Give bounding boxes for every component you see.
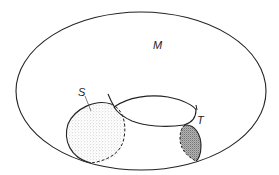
disc-s bbox=[66, 103, 124, 164]
label-t: T bbox=[197, 114, 205, 126]
label-m: M bbox=[153, 39, 163, 51]
manifold-boundary bbox=[16, 12, 266, 170]
label-s: S bbox=[78, 86, 86, 98]
disc-t bbox=[180, 125, 201, 161]
manifold-diagram: M S T bbox=[0, 0, 279, 175]
